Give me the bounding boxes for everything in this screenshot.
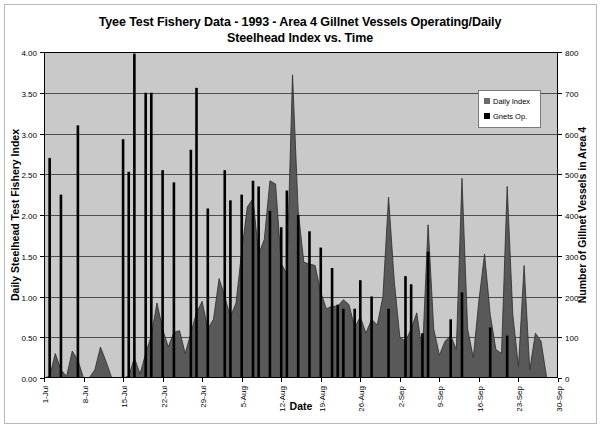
y-axis-left-tick-label: 3.00 bbox=[21, 131, 37, 140]
x-axis-tick-label: 23-Sep bbox=[515, 385, 524, 411]
legend-swatch bbox=[484, 98, 490, 104]
gnets-op-bar bbox=[48, 158, 51, 378]
y-axis-left-tick-label: 0.00 bbox=[21, 375, 37, 384]
legend-label: Daily Index bbox=[493, 97, 530, 106]
gnets-op-bar bbox=[252, 181, 255, 378]
gnets-op-bar bbox=[336, 305, 339, 378]
gnets-op-bar bbox=[297, 215, 300, 378]
gnets-op-bar bbox=[195, 88, 198, 378]
y-axis-left-tick-label: 2.50 bbox=[21, 171, 37, 180]
gnets-op-bar bbox=[308, 231, 311, 378]
gnets-op-bar bbox=[173, 182, 176, 378]
gnets-op-bar bbox=[421, 333, 424, 378]
gnets-op-bar bbox=[286, 191, 289, 378]
gnets-op-bar bbox=[489, 327, 492, 378]
x-axis-tick-label: 5-Aug bbox=[239, 386, 248, 407]
gnets-op-bar bbox=[319, 248, 322, 378]
y-axis-right-tick-label: 800 bbox=[565, 49, 579, 58]
legend-swatch bbox=[484, 113, 490, 119]
y-axis-right-title: Number of Gillnet Vessels in Area 4 bbox=[576, 127, 588, 304]
y-axis-right-tick-label: 100 bbox=[565, 334, 579, 343]
gnets-op-bar bbox=[257, 186, 260, 378]
y-axis-left-tick-label: 2.00 bbox=[21, 212, 37, 221]
gnets-op-bar bbox=[427, 252, 430, 378]
gnets-op-bar bbox=[461, 292, 464, 378]
chart-legend: Daily IndexGnets Op. bbox=[479, 91, 541, 128]
gnets-op-bar bbox=[506, 336, 509, 378]
x-axis-title: Date bbox=[290, 400, 313, 412]
gnets-op-bar bbox=[223, 170, 226, 378]
y-axis-left-tick-label: 1.00 bbox=[21, 294, 37, 303]
gnets-op-bar bbox=[144, 93, 147, 378]
gnets-op-bar bbox=[370, 297, 373, 379]
x-axis-tick-label: 8-Jul bbox=[81, 386, 90, 404]
y-axis-left-tick-label: 0.50 bbox=[21, 334, 37, 343]
x-axis-tick-label: 26-Aug bbox=[357, 386, 366, 412]
gnets-op-bar bbox=[133, 54, 136, 378]
x-axis-tick-label: 15-Jul bbox=[120, 386, 129, 408]
x-axis-tick-label: 1-Jul bbox=[41, 386, 50, 404]
y-axis-left-title: Daily Steelhead Test Fishery Index bbox=[9, 129, 21, 301]
chart-plot-area: 0.000.501.001.502.002.503.003.504.00 010… bbox=[0, 0, 601, 434]
x-axis-tick-label: 30-Sep bbox=[555, 385, 564, 411]
chart-root: Tyee Test Fishery Data - 1993 - Area 4 G… bbox=[0, 0, 601, 434]
gnets-op-bar bbox=[331, 268, 334, 378]
y-axis-right-tick-label: 700 bbox=[565, 90, 579, 99]
gnets-op-bar bbox=[161, 170, 164, 378]
x-axis-tick-label: 19-Aug bbox=[318, 386, 327, 412]
gnets-op-bar bbox=[190, 150, 193, 378]
gnets-op-bar bbox=[387, 309, 390, 378]
gnets-op-bar bbox=[77, 125, 80, 378]
y-axis-left-tick-label: 3.50 bbox=[21, 90, 37, 99]
gnets-op-bar bbox=[122, 139, 125, 378]
gnets-op-bar bbox=[150, 93, 153, 378]
legend-label: Gnets Op. bbox=[493, 112, 527, 121]
gnets-op-bar bbox=[359, 280, 362, 378]
gnets-op-bar bbox=[410, 284, 413, 378]
gnets-op-bar bbox=[60, 195, 63, 378]
x-axis-tick-label: 16-Sep bbox=[476, 385, 485, 411]
x-axis-tick-label: 2-Sep bbox=[397, 385, 406, 407]
gnets-op-bar bbox=[342, 309, 345, 378]
y-axis-right-tick-label: 0 bbox=[565, 375, 570, 384]
x-axis-tick-label: 29-Jul bbox=[199, 386, 208, 408]
x-axis-tick-label: 12-Aug bbox=[278, 386, 287, 412]
y-axis-left-tick-label: 4.00 bbox=[21, 49, 37, 58]
y-axis-left-ticks: 0.000.501.001.502.002.503.003.504.00 bbox=[21, 49, 44, 384]
gnets-op-bar bbox=[280, 227, 283, 378]
gnets-op-bar bbox=[404, 276, 407, 378]
x-axis-tick-label: 22-Jul bbox=[160, 386, 169, 408]
gnets-op-bar bbox=[127, 172, 130, 378]
gnets-op-bar bbox=[240, 195, 243, 378]
y-axis-left-tick-label: 1.50 bbox=[21, 253, 37, 262]
gnets-op-bar bbox=[449, 319, 452, 378]
x-axis-tick-label: 9-Sep bbox=[436, 385, 445, 407]
gnets-op-bar bbox=[353, 309, 356, 378]
gnets-op-bar bbox=[269, 211, 272, 378]
gnets-op-bar bbox=[229, 200, 232, 378]
gnets-op-bar bbox=[207, 208, 210, 378]
